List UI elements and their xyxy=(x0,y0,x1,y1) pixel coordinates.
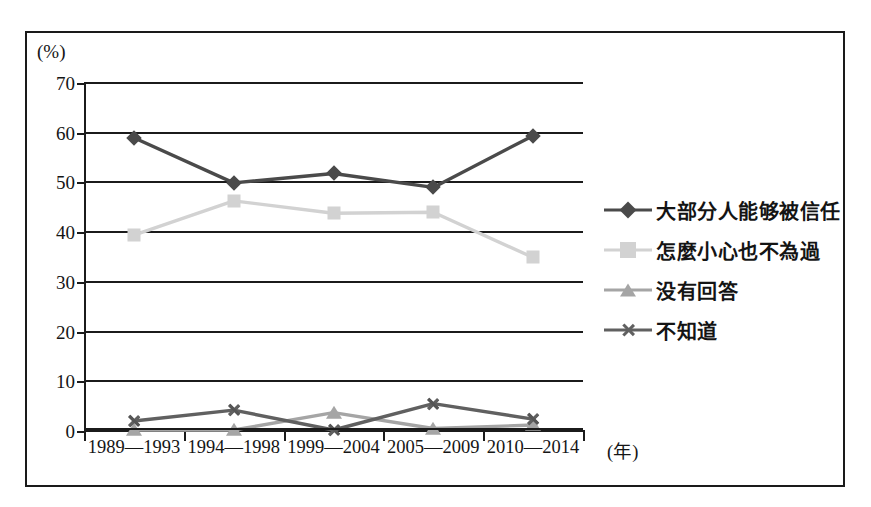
gridline: 20 xyxy=(84,331,583,333)
x-tick-label: 2010—2014 xyxy=(487,437,580,458)
legend-item-label: 没有回答 xyxy=(656,276,738,305)
y-tick-mark xyxy=(77,182,84,184)
gridline: 10 xyxy=(84,380,583,382)
x-axis-labels: (年) 1989—19931994—19981999—20042005—2009… xyxy=(84,437,644,465)
legend-item[interactable]: 怎麼小心也不為過 xyxy=(604,233,839,267)
y-tick-label: 60 xyxy=(56,123,75,145)
gridline: 70 xyxy=(84,82,583,84)
gridline: 60 xyxy=(84,132,583,134)
y-tick-mark xyxy=(77,431,84,433)
y-tick-label: 10 xyxy=(56,371,75,393)
legend-item-label: 大部分人能够被信任 xyxy=(656,196,841,225)
x-tick-label: 1989—1993 xyxy=(88,437,181,458)
x-axis-unit-label: (年) xyxy=(607,437,638,463)
triangle-marker xyxy=(604,281,652,299)
y-tick-label: 70 xyxy=(56,73,75,95)
y-tick-label: 0 xyxy=(66,421,76,443)
legend-item-label: 怎麼小心也不為過 xyxy=(656,236,820,265)
gridline: 40 xyxy=(84,231,583,233)
x-tick-label: 1999—2004 xyxy=(287,437,380,458)
x-marker xyxy=(604,321,652,339)
y-tick-mark xyxy=(77,282,84,284)
legend-item[interactable]: 不知道 xyxy=(604,313,839,347)
y-tick-label: 50 xyxy=(56,172,75,194)
x-axis-line xyxy=(84,428,583,430)
y-axis-unit-label: (%) xyxy=(37,41,65,63)
series-lines-layer xyxy=(84,82,583,430)
y-tick-mark xyxy=(77,332,84,334)
gridline: 30 xyxy=(84,281,583,283)
x-tick-label: 1994—1998 xyxy=(187,437,280,458)
square-marker xyxy=(604,241,652,259)
legend-item[interactable]: 大部分人能够被信任 xyxy=(604,193,839,227)
chart-legend: 大部分人能够被信任怎麼小心也不為過没有回答不知道 xyxy=(604,193,839,353)
y-tick-mark xyxy=(77,232,84,234)
y-tick-label: 40 xyxy=(56,222,75,244)
plot-area: 010203040506070 xyxy=(84,82,583,430)
gridline: 50 xyxy=(84,181,583,183)
legend-item-label: 不知道 xyxy=(656,316,718,345)
x-tick-label: 2005—2009 xyxy=(387,437,480,458)
y-tick-label: 30 xyxy=(56,272,75,294)
diamond-marker xyxy=(604,201,652,219)
y-tick-label: 20 xyxy=(56,322,75,344)
y-axis-line xyxy=(84,82,86,430)
y-tick-mark xyxy=(77,381,84,383)
chart-figure: (%) 010203040506070 (年) 1989—19931994—19… xyxy=(25,31,845,487)
y-tick-mark xyxy=(77,83,84,85)
y-tick-mark xyxy=(77,133,84,135)
legend-item[interactable]: 没有回答 xyxy=(604,273,839,307)
